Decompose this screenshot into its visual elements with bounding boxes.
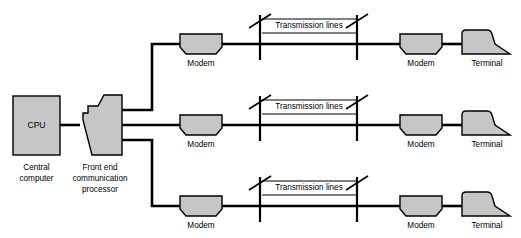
node-front-end-processor[interactable]: Front end communication processor (72, 95, 128, 194)
modem-shape (180, 34, 222, 54)
transmission-label: Transmission lines (275, 102, 343, 111)
diagram-canvas: CPU Central computer Front end communica… (0, 0, 521, 238)
node-modem-bottom-left[interactable]: Modem (180, 196, 222, 230)
modem-shape (180, 115, 222, 135)
modem-shape (400, 34, 442, 54)
modem-label: Modem (187, 140, 214, 149)
transmission-label: Transmission lines (275, 21, 343, 30)
fep-caption-line1: Front end (82, 163, 117, 172)
node-modem-middle-left[interactable]: Modem (180, 115, 222, 149)
row-top: Modem Transmission lines Modem Terminal (180, 14, 510, 68)
node-modem-middle-right[interactable]: Modem (400, 115, 442, 149)
transmission-label: Transmission lines (275, 183, 343, 192)
modem-label: Modem (407, 221, 434, 230)
node-modem-top-left[interactable]: Modem (180, 34, 222, 68)
modem-shape (400, 196, 442, 216)
wire-fep-branch-top (122, 44, 180, 110)
transmission-line-top: Transmission lines (249, 14, 368, 60)
modem-label: Modem (407, 59, 434, 68)
node-modem-top-right[interactable]: Modem (400, 34, 442, 68)
node-cpu[interactable]: CPU Central computer (13, 96, 60, 183)
terminal-label: Terminal (472, 59, 503, 68)
modem-shape (400, 115, 442, 135)
modem-label: Modem (407, 140, 434, 149)
terminal-label: Terminal (472, 140, 503, 149)
row-middle: Modem Transmission lines Modem Terminal (180, 95, 510, 149)
modem-label: Modem (187, 59, 214, 68)
fep-caption-line2: communication (72, 174, 128, 183)
cpu-inner-label: CPU (27, 120, 45, 130)
front-end-processor-shape (83, 95, 122, 155)
wire-fep-branch-bottom (122, 140, 180, 206)
cpu-caption-line2: computer (19, 174, 53, 183)
terminal-shape (462, 192, 510, 216)
fep-caption-line3: processor (82, 185, 118, 194)
terminal-shape (462, 111, 510, 135)
transmission-line-bottom: Transmission lines (249, 176, 368, 222)
transmission-line-middle: Transmission lines (249, 95, 368, 141)
row-bottom: Modem Transmission lines Modem Terminal (180, 176, 510, 230)
node-terminal-top[interactable]: Terminal (462, 30, 510, 68)
node-terminal-middle[interactable]: Terminal (462, 111, 510, 149)
modem-shape (180, 196, 222, 216)
network-diagram: CPU Central computer Front end communica… (0, 0, 521, 238)
node-terminal-bottom[interactable]: Terminal (462, 192, 510, 230)
modem-label: Modem (187, 221, 214, 230)
terminal-shape (462, 30, 510, 54)
cpu-caption-line1: Central (23, 163, 50, 172)
node-modem-bottom-right[interactable]: Modem (400, 196, 442, 230)
terminal-label: Terminal (472, 221, 503, 230)
